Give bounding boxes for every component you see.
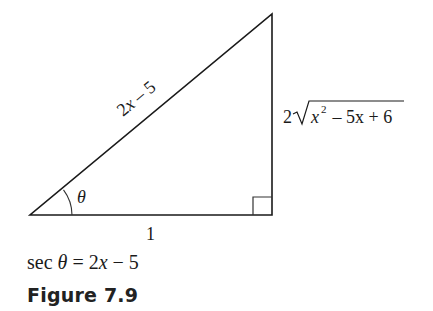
equation-eq: = 2 [67,251,98,273]
angle-arc [64,190,73,215]
equation-func: sec [27,251,58,273]
opposite-coeff: 2 [283,107,292,127]
opposite-rest: – 5x + 6 [328,107,392,127]
opposite-var: x [310,107,319,127]
opposite-side-label: 2 x 2 – 5x + 6 [283,101,404,127]
adjacent-side-label: 1 [146,224,155,244]
equation-var: x [99,251,108,273]
right-triangle [30,14,272,215]
equation-theta: θ [58,251,68,273]
caption-equation: sec θ = 2x − 5 [27,251,139,274]
equation-rest: − 5 [108,251,139,273]
angle-label-theta: θ [77,187,86,207]
right-angle-marker [253,197,272,215]
opposite-exponent: 2 [321,103,327,115]
right-triangle-diagram: θ 1 2x – 5 2 x 2 – 5x + 6 [0,0,433,250]
figure-label: Figure 7.9 [27,284,138,306]
